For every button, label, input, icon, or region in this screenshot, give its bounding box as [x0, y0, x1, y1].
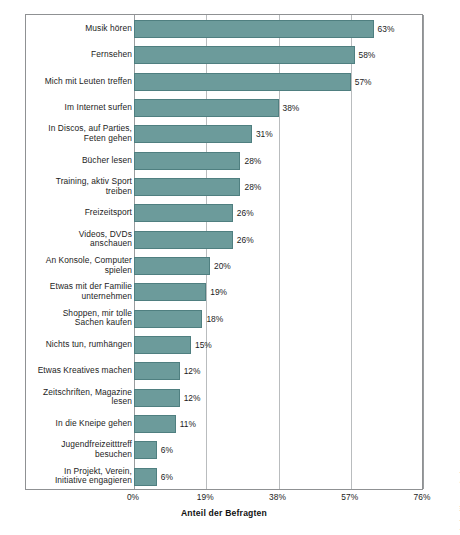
x-axis-tick-labels: 0%19%38%57%76% — [25, 492, 423, 506]
bar-value-label: 28% — [244, 156, 261, 166]
category-label: Zeitschriften, Magazine lesen — [17, 388, 132, 407]
bar — [134, 73, 351, 91]
category-label: In Discos, auf Parties, Feten gehen — [17, 125, 132, 144]
bar — [134, 310, 202, 328]
bar-row: Bücher lesen28% — [26, 148, 422, 174]
category-label: In Projekt, Verein, Initiative engagiere… — [17, 467, 132, 486]
category-label: In die Kneipe gehen — [17, 419, 132, 429]
category-label: Videos, DVDs anschauen — [17, 230, 132, 249]
bar — [134, 283, 206, 301]
bar-value-label: 19% — [210, 287, 227, 297]
bar-row: Zeitschriften, Magazine lesen12% — [26, 385, 422, 411]
bar-row: Training, aktiv Sport treiben28% — [26, 174, 422, 200]
bar-value-label: 20% — [214, 261, 231, 271]
bar-value-label: 58% — [359, 50, 376, 60]
x-tick-label: 19% — [197, 492, 214, 502]
bar-row: Mich mit Leuten treffen57% — [26, 69, 422, 95]
category-label: Fernsehen — [17, 51, 132, 61]
bar-value-label: 57% — [355, 77, 372, 87]
bar — [134, 204, 233, 222]
bar — [134, 46, 355, 64]
x-axis-title: Anteil der Befragten — [25, 508, 423, 518]
category-label: Shoppen, mir tolle Sachen kaufen — [17, 309, 132, 328]
bar-row: Shoppen, mir tolle Sachen kaufen18% — [26, 306, 422, 332]
category-label: An Konsole, Computer spielen — [17, 257, 132, 276]
bar — [134, 20, 374, 38]
horizontal-bar-chart: Musik hören63%Fernsehen58%Mich mit Leute… — [0, 0, 460, 535]
bar — [134, 362, 180, 380]
bar-row: Musik hören63% — [26, 16, 422, 42]
category-label: Im Internet surfen — [17, 103, 132, 113]
bar-row: In Discos, auf Parties, Feten gehen31% — [26, 121, 422, 147]
x-tick-label: 0% — [127, 492, 139, 502]
bar-row: Nichts tun, rumhängen15% — [26, 332, 422, 358]
bar-value-label: 12% — [184, 366, 201, 376]
category-label: Bücher lesen — [17, 156, 132, 166]
bar-value-label: 11% — [180, 419, 196, 429]
bar-row: Freizeitsport26% — [26, 200, 422, 226]
bar-value-label: 18% — [206, 314, 223, 324]
category-label: Freizeitsport — [17, 209, 132, 219]
bar-row: Etwas Kreatives machen12% — [26, 358, 422, 384]
bar — [134, 178, 240, 196]
plot-area: Musik hören63%Fernsehen58%Mich mit Leute… — [25, 14, 423, 490]
gridline-76pct — [423, 15, 424, 489]
bar-row: Im Internet surfen38% — [26, 95, 422, 121]
bar-row: Videos, DVDs anschauen26% — [26, 227, 422, 253]
bar-value-label: 15% — [195, 340, 212, 350]
category-label: Musik hören — [17, 24, 132, 34]
category-label: Training, aktiv Sport treiben — [17, 178, 132, 197]
bar-value-label: 6% — [161, 445, 173, 455]
bar-value-label: 6% — [161, 472, 173, 482]
bar — [134, 231, 233, 249]
category-label: Jugendfreizeitttreff besuchen — [17, 441, 132, 460]
bar — [134, 415, 176, 433]
x-tick-label: 57% — [341, 492, 358, 502]
bar — [134, 336, 191, 354]
bar — [134, 99, 279, 117]
bar — [134, 125, 252, 143]
bar-row: In die Kneipe gehen11% — [26, 411, 422, 437]
bar-row: Fernsehen58% — [26, 42, 422, 68]
bar — [134, 389, 180, 407]
bar-value-label: 12% — [184, 393, 201, 403]
bar — [134, 468, 157, 486]
category-label: Mich mit Leuten treffen — [17, 77, 132, 87]
bar — [134, 441, 157, 459]
bar-value-label: 38% — [283, 103, 300, 113]
x-tick-label: 38% — [269, 492, 286, 502]
bar-value-label: 28% — [244, 182, 261, 192]
category-label: Etwas Kreatives machen — [17, 367, 132, 377]
bar-row: An Konsole, Computer spielen20% — [26, 253, 422, 279]
bar-value-label: 63% — [378, 24, 395, 34]
bar-row: Etwas mit der Familie unternehmen19% — [26, 279, 422, 305]
x-tick-label: 76% — [414, 492, 431, 502]
bar-rows: Musik hören63%Fernsehen58%Mich mit Leute… — [26, 15, 422, 489]
bar-value-label: 31% — [256, 129, 273, 139]
bar-row: Jugendfreizeitttreff besuchen6% — [26, 437, 422, 463]
bar-value-label: 26% — [237, 235, 254, 245]
bar-value-label: 26% — [237, 208, 254, 218]
bar-row: In Projekt, Verein, Initiative engagiere… — [26, 464, 422, 490]
bar — [134, 257, 210, 275]
category-label: Etwas mit der Familie unternehmen — [17, 283, 132, 302]
category-label: Nichts tun, rumhängen — [17, 340, 132, 350]
bar — [134, 152, 240, 170]
